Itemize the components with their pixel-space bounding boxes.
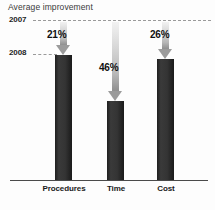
data-label-cost: 26%	[150, 29, 169, 40]
reference-line-2008	[33, 54, 57, 55]
category-label-procedures: Procedures	[33, 184, 95, 193]
arrow-head-time	[108, 91, 122, 101]
axis-label-2008: 2008	[9, 48, 26, 57]
x-axis-line	[10, 180, 208, 181]
bar-time	[107, 101, 124, 180]
arrow-head-procedures	[56, 45, 70, 55]
reference-line-2007	[33, 20, 211, 21]
chart-title: Average improvement	[8, 2, 93, 12]
category-label-time: Time	[88, 184, 144, 193]
data-label-time: 46%	[99, 62, 118, 73]
arrow-shaft-time	[112, 22, 119, 91]
data-label-procedures: 21%	[47, 29, 66, 40]
bar-cost	[157, 59, 174, 180]
bar-procedures	[55, 55, 72, 180]
arrow-head-cost	[158, 49, 172, 59]
down-arrow-icon-cost	[158, 22, 173, 59]
category-label-cost: Cost	[138, 184, 194, 193]
chart-container: Average improvement 2007 2008 21%Procedu…	[0, 0, 215, 210]
axis-label-2007: 2007	[9, 15, 26, 24]
